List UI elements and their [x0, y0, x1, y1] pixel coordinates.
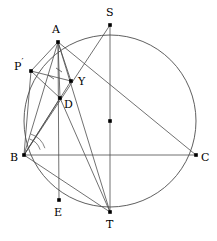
segment-PD — [31, 71, 60, 98]
segment-AC — [58, 42, 196, 155]
point-label-T: T — [106, 219, 113, 230]
point-marker-E[interactable] — [57, 198, 61, 202]
point-marker-S[interactable] — [108, 23, 112, 27]
point-marker-C[interactable] — [194, 153, 198, 157]
point-marker-O[interactable] — [108, 119, 112, 123]
point-label-D: D — [64, 99, 73, 110]
point-marker-B[interactable] — [22, 153, 26, 157]
point-label-C: C — [201, 152, 209, 163]
point-marker-D[interactable] — [58, 96, 62, 100]
point-label-P-prime: P′ — [14, 58, 23, 72]
point-marker-Y[interactable] — [69, 79, 73, 83]
point-label-Y: Y — [78, 76, 85, 87]
prime-mark: ′ — [21, 57, 23, 67]
segment-SB — [24, 25, 110, 155]
geometry-figure: ASP′YDBCET — [0, 0, 217, 241]
point-marker-P-prime[interactable] — [29, 69, 33, 73]
segment-AT — [58, 42, 110, 212]
point-marker-A[interactable] — [56, 40, 60, 44]
point-label-B: B — [10, 152, 18, 163]
point-marker-T[interactable] — [108, 210, 112, 214]
diagram-canvas — [0, 0, 217, 241]
point-label-A: A — [52, 24, 60, 35]
point-label-S: S — [106, 7, 114, 18]
point-label-E: E — [54, 207, 62, 218]
